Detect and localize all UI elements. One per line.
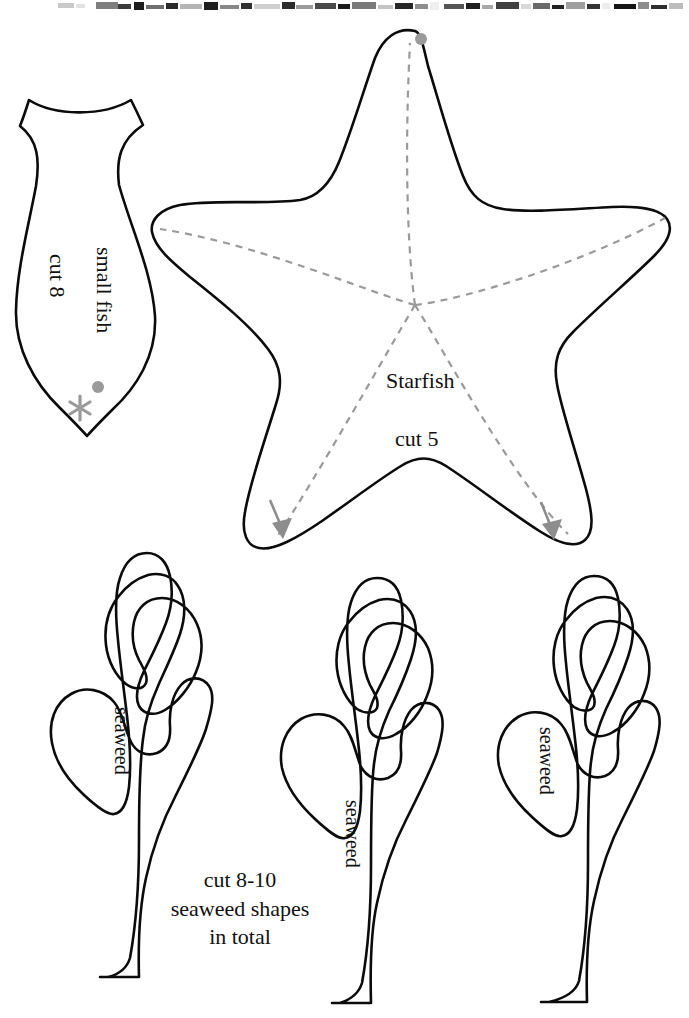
starfish-gray-dot [415,33,427,45]
small-fish-outline [16,100,155,436]
small-fish-cut-label: cut 8 [46,254,68,297]
pattern-piece-starfish [152,30,670,548]
seaweed-note-line-3: in total [150,923,330,952]
pattern-piece-small-fish [16,100,155,436]
starfish-name-label: Starfish [386,370,454,392]
seaweed-right-label: seaweed [537,727,557,795]
seaweed-right-outline [498,576,660,1002]
starfish-cut-label: cut 5 [395,428,438,450]
seaweed-note-line-1: cut 8-10 [150,866,330,895]
seaweed-quantity-note: cut 8-10 seaweed shapes in total [150,866,330,952]
seaweed-left-label: seaweed [112,707,132,775]
pattern-piece-seaweed-right [498,576,660,1002]
small-fish-gray-dot [92,381,104,393]
small-fish-name-label: small fish [93,247,115,333]
starfish-outline [152,30,670,548]
seaweed-note-line-2: seaweed shapes [150,895,330,924]
pattern-sheet: small fish cut 8 Starfish cut 5 seaweed … [0,0,689,1018]
seaweed-middle-label: seaweed [343,800,363,868]
